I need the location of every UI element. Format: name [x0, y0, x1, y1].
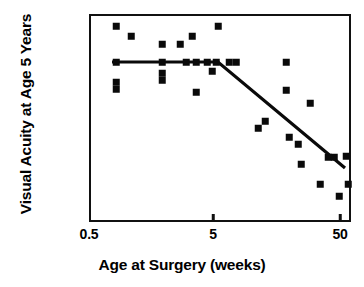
data-point — [262, 118, 269, 125]
data-point — [345, 181, 352, 188]
data-point — [343, 153, 350, 160]
data-point — [331, 154, 338, 161]
x-tick-text: 50 — [332, 226, 347, 242]
data-point — [226, 59, 233, 66]
x-tick-mark — [212, 214, 215, 222]
x-tick-mark — [339, 214, 342, 222]
data-point — [283, 87, 290, 94]
data-point — [159, 59, 166, 66]
x-tick-text: 5 — [209, 226, 217, 242]
chart-figure: Visual Acuity at Age 5 Years 20/2020/402… — [0, 0, 364, 287]
x-tick-text: 0.5 — [80, 226, 99, 242]
data-point — [189, 33, 196, 40]
plot-area — [89, 14, 351, 222]
data-point — [215, 23, 222, 30]
data-point — [307, 100, 314, 107]
data-point — [159, 41, 166, 48]
data-point — [193, 89, 200, 96]
data-point — [159, 70, 166, 77]
data-point — [283, 59, 290, 66]
data-point — [113, 59, 120, 66]
data-point — [128, 33, 135, 40]
data-point — [204, 59, 211, 66]
data-point — [255, 125, 262, 132]
data-point — [193, 59, 200, 66]
data-point — [113, 79, 120, 86]
data-point — [298, 161, 305, 168]
data-point — [113, 23, 120, 30]
x-axis-title: Age at Surgery (weeks) — [0, 256, 364, 274]
data-point — [336, 193, 343, 200]
data-point — [286, 134, 293, 141]
data-point — [159, 77, 166, 84]
data-point — [295, 141, 302, 148]
data-point — [213, 59, 220, 66]
y-axis-title: Visual Acuity at Age 5 Years — [15, 4, 37, 224]
data-point — [113, 86, 120, 93]
data-point — [233, 59, 240, 66]
data-point — [317, 181, 324, 188]
data-point — [183, 59, 190, 66]
data-point — [177, 41, 184, 48]
data-point — [209, 68, 216, 75]
